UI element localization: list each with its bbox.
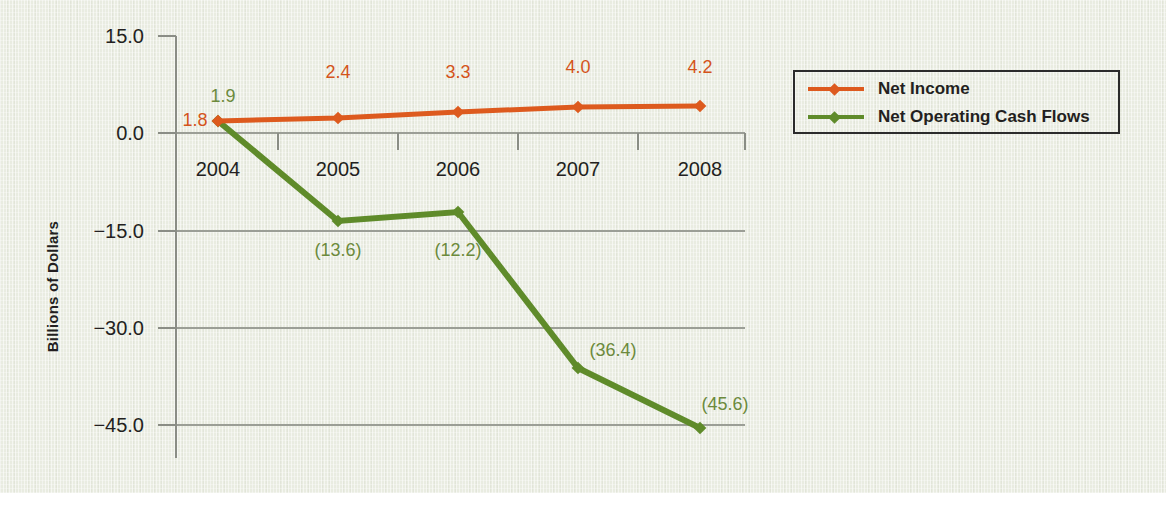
x-tick-label-2005: 2005 xyxy=(293,158,383,181)
page-bottom-margin xyxy=(0,493,1166,507)
x-tick-label-2004: 2004 xyxy=(173,158,263,181)
data-label-net-income-2004: 1.8 xyxy=(175,110,215,131)
data-label-cash-flows-2005: (13.6) xyxy=(303,240,373,261)
data-label-cash-flows-2007: (36.4) xyxy=(578,340,648,361)
legend-swatch-net-income-icon xyxy=(808,82,864,96)
x-tick-label-2007: 2007 xyxy=(533,158,623,181)
data-label-net-income-2008: 4.2 xyxy=(680,57,720,78)
y-tick-label-0: 0.0 xyxy=(52,122,144,145)
legend-label-net-operating-cash-flows: Net Operating Cash Flows xyxy=(878,107,1090,127)
data-label-cash-flows-2004: 1.9 xyxy=(203,86,243,107)
series-markers-orange xyxy=(212,100,707,128)
y-tick-label-15: 15.0 xyxy=(52,25,144,48)
x-axis-ticks xyxy=(278,133,745,150)
y-tick-label-minus45: −45.0 xyxy=(52,414,144,437)
x-tick-label-2006: 2006 xyxy=(413,158,503,181)
legend-label-net-income: Net Income xyxy=(878,79,970,99)
data-label-net-income-2005: 2.4 xyxy=(318,62,358,83)
data-label-cash-flows-2008: (45.6) xyxy=(690,394,760,415)
y-tick-label-minus30: −30.0 xyxy=(52,317,144,340)
y-axis-title: Billions of Dollars xyxy=(44,197,61,377)
legend-item-net-income[interactable]: Net Income xyxy=(808,76,970,102)
legend-item-net-operating-cash-flows[interactable]: Net Operating Cash Flows xyxy=(808,104,1090,130)
chart-screenshot: 15.0 0.0 −15.0 −30.0 −45.0 Billions of D… xyxy=(0,0,1166,507)
data-label-net-income-2006: 3.3 xyxy=(438,62,478,83)
data-label-cash-flows-2006: (12.2) xyxy=(423,240,493,261)
x-tick-label-2008: 2008 xyxy=(655,158,745,181)
legend-swatch-net-operating-cash-flows-icon xyxy=(808,110,864,124)
series-net-income xyxy=(212,100,707,128)
y-axis xyxy=(158,36,176,458)
chart-legend: Net Income Net Operating Cash Flows xyxy=(793,70,1120,134)
y-tick-label-minus15: −15.0 xyxy=(52,220,144,243)
data-label-net-income-2007: 4.0 xyxy=(558,57,598,78)
